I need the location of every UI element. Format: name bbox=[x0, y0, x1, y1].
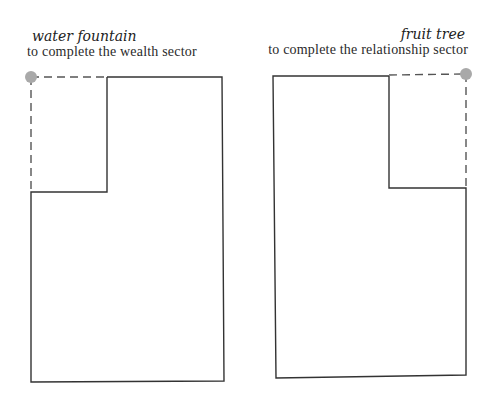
floorplan-diagrams bbox=[0, 0, 495, 398]
left-floorplan-outline bbox=[31, 77, 224, 382]
right-missing-area-dashed bbox=[389, 74, 466, 75]
right-corner-marker-icon bbox=[460, 68, 472, 80]
right-floorplan-outline bbox=[273, 76, 466, 378]
left-floorplan bbox=[25, 71, 224, 382]
left-corner-marker-icon bbox=[25, 71, 37, 83]
right-floorplan bbox=[273, 68, 472, 378]
